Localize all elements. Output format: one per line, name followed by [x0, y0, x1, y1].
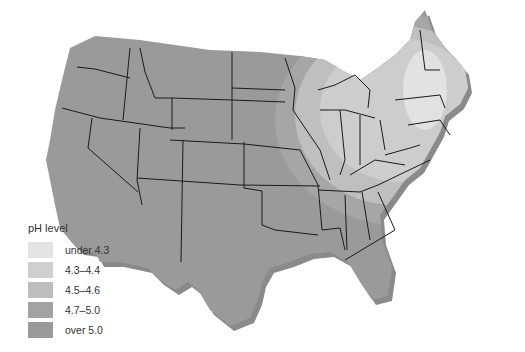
legend-swatch: [28, 262, 53, 278]
legend-label: 4.5–4.6: [65, 284, 100, 296]
legend-label: 4.7–5.0: [65, 304, 100, 316]
legend-swatch: [28, 322, 53, 338]
legend-label: 4.3–4.4: [65, 264, 100, 276]
legend-label: over 5.0: [65, 324, 103, 336]
region-under-4-3: [403, 50, 447, 130]
legend-item: under 4.3: [28, 240, 109, 260]
legend-label: under 4.3: [65, 244, 109, 256]
legend-title: pH level: [28, 222, 109, 234]
legend: pH level under 4.3 4.3–4.4 4.5–4.6 4.7–5…: [28, 222, 109, 340]
legend-item: 4.7–5.0: [28, 300, 109, 320]
legend-item: 4.5–4.6: [28, 280, 109, 300]
legend-swatch: [28, 302, 53, 318]
legend-swatch: [28, 242, 53, 258]
legend-item: 4.3–4.4: [28, 260, 109, 280]
legend-swatch: [28, 282, 53, 298]
legend-item: over 5.0: [28, 320, 109, 340]
